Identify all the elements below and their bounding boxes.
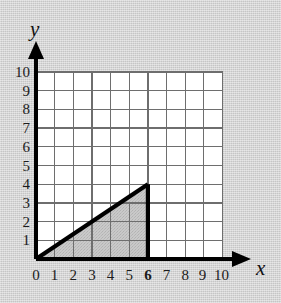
y-tick-label-8: 8 (4, 102, 30, 117)
y-tick-label-5: 5 (4, 158, 30, 173)
x-tick-label-6: 6 (144, 268, 152, 283)
y-tick-label-10: 10 (1, 65, 30, 80)
x-tick-label-4: 4 (107, 268, 115, 283)
origin-tick-label: 0 (32, 268, 40, 283)
plot-canvas (0, 0, 281, 303)
x-tick-label-8: 8 (181, 268, 189, 283)
y-tick-label-6: 6 (4, 139, 30, 154)
x-axis-arrow-icon (232, 251, 251, 267)
y-tick-label-3: 3 (4, 195, 30, 210)
x-tick-label-10: 10 (214, 268, 229, 283)
y-axis-label: y (30, 19, 39, 40)
x-tick-label-7: 7 (163, 268, 171, 283)
x-tick-label-2: 2 (70, 268, 78, 283)
x-tick-label-1: 1 (51, 268, 59, 283)
x-tick-label-3: 3 (88, 268, 96, 283)
x-tick-label-9: 9 (199, 268, 207, 283)
y-tick-label-7: 7 (4, 121, 30, 136)
y-tick-label-1: 1 (4, 233, 30, 248)
y-tick-label-4: 4 (4, 177, 30, 192)
y-axis-arrow-icon (28, 41, 44, 59)
x-tick-label-5: 5 (125, 268, 133, 283)
coordinate-grid-figure: y x 0 1 2 3 4 5 6 7 8 9 10 1 2 3 4 5 6 7… (0, 0, 281, 303)
y-tick-label-2: 2 (4, 214, 30, 229)
y-tick-label-9: 9 (4, 83, 30, 98)
x-axis-label: x (256, 258, 265, 279)
